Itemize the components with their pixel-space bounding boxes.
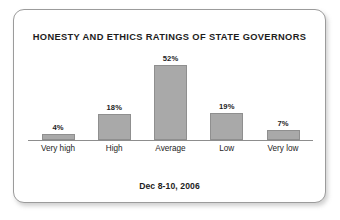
tick-label-very-low: Very low [255, 144, 311, 153]
bar-value-label: 52% [163, 55, 179, 63]
bar-low [210, 113, 243, 140]
chart-page: HONESTY AND ETHICS RATINGS OF STATE GOVE… [0, 0, 340, 220]
x-axis-line [28, 140, 313, 141]
bar-column-very-high: 4% [30, 54, 86, 140]
bar-column-high: 18% [86, 54, 142, 140]
bar-value-label: 4% [52, 124, 63, 132]
chart-card: HONESTY AND ETHICS RATINGS OF STATE GOVE… [13, 9, 326, 203]
bar-value-label: 7% [277, 120, 288, 128]
tick-label-average: Average [143, 144, 199, 153]
bar-high [98, 114, 131, 140]
chart-footer-date: Dec 8-10, 2006 [14, 181, 325, 191]
tick-label-high: High [86, 144, 142, 153]
bar-very-low [267, 130, 300, 140]
tick-label-low: Low [199, 144, 255, 153]
tick-label-very-high: Very high [30, 144, 86, 153]
bar-value-label: 19% [219, 103, 235, 111]
bar-column-average: 52% [143, 54, 199, 140]
bar-value-label: 18% [107, 104, 123, 112]
bar-column-very-low: 7% [255, 54, 311, 140]
bar-average [154, 65, 187, 140]
x-axis-tick-labels: Very high High Average Low Very low [30, 144, 311, 153]
plot-area: 4% 18% 52% 19% 7% [30, 54, 311, 140]
chart-title: HONESTY AND ETHICS RATINGS OF STATE GOVE… [14, 32, 325, 42]
bar-column-low: 19% [199, 54, 255, 140]
bar-series: 4% 18% 52% 19% 7% [30, 54, 311, 140]
